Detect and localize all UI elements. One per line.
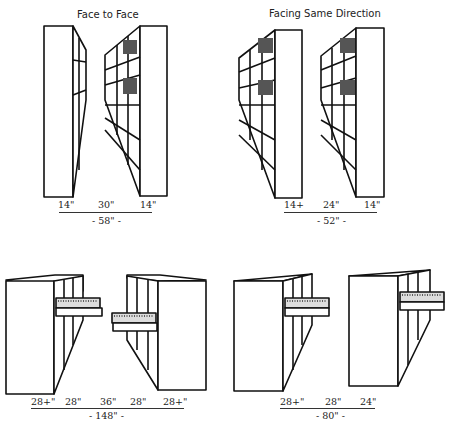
dim-label: 14" [364,199,380,210]
dim-total: - 58" - [92,215,121,226]
dimension-line [59,212,152,213]
dim-label: 14" [140,199,156,210]
dim-label: 24" [360,396,376,407]
dim-label: 28" [325,396,341,407]
dim-label: 28+" [31,396,55,407]
panel-title-face-to-face: Face to Face [77,9,139,20]
dim-label: 28" [65,396,81,407]
dimension-line [284,212,377,213]
drawer-cabinet-right [112,275,206,390]
dimension-line [280,408,375,409]
dim-label: 14" [58,199,74,210]
shelf-unit-right-open [105,26,167,196]
dim-total: - 52" - [317,215,346,226]
drawer-cabinet-a [234,274,329,391]
dimension-line [31,408,184,409]
drawer-cabinet-b [349,270,444,386]
diagram-drawings [0,0,462,429]
dim-label: 14+ [284,199,304,210]
shelf-unit-a [239,30,302,198]
drawer-cabinet-left [6,275,102,394]
dim-label: 28" [130,396,146,407]
dim-total: - 80" - [316,410,345,421]
dim-label: 36" [100,396,116,407]
shelf-unit-left-front [44,26,86,197]
dim-label: 30" [98,199,114,210]
dim-label: 28+" [163,396,187,407]
shelf-unit-b [321,28,384,197]
panel-title-facing-same-direction: Facing Same Direction [269,8,381,19]
dim-label: 24" [323,199,339,210]
dim-label: 28+" [280,396,304,407]
dim-total: - 148" - [89,410,124,421]
